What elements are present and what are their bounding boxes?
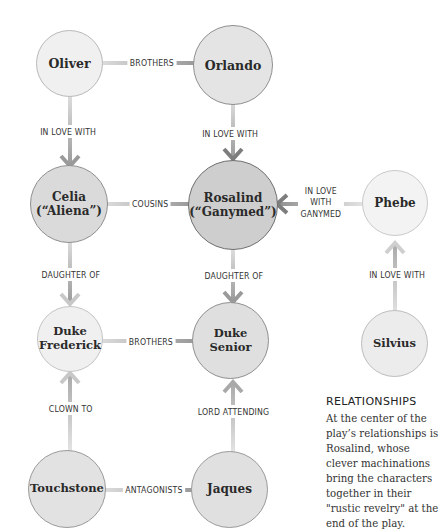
node-label: Duke Senior (193, 327, 268, 355)
rel-silvius-phebe: IN LOVE WITH (368, 268, 427, 281)
rel-jaques-senior: LORD ATTENDING (196, 405, 271, 418)
node-label-line2: Frederick (39, 339, 101, 353)
node-silvius: Silvius (361, 310, 428, 377)
caption-title: RELATIONSHIPS (326, 395, 417, 408)
rel-orlando-rosalind: IN LOVE WITH (201, 127, 260, 140)
node-rosalind: Rosalind(“Ganymed”) (188, 160, 278, 250)
node-duke-frederick: DukeFrederick (37, 306, 103, 372)
node-label-line2: (“Ganymed”) (189, 205, 277, 219)
node-label: Orlando (205, 58, 262, 73)
rel-line: WITH (300, 196, 341, 207)
rel-celia-frederick: DAUGHTER OF (40, 268, 102, 281)
node-orlando: Orlando (193, 25, 273, 105)
rel-phebe-rosalind: IN LOVE WITH GANYMED (298, 185, 344, 219)
node-label-line1: Rosalind (189, 191, 277, 205)
node-jaques: Jaques (191, 451, 268, 528)
node-celia: Celia(“Aliena”) (30, 165, 108, 243)
node-label: Oliver (48, 56, 90, 71)
rel-rosalind-senior: DAUGHTER OF (203, 269, 265, 282)
caption-body: At the center of the play’s relationship… (326, 411, 442, 529)
node-label-line1: Celia (36, 190, 102, 204)
node-label-line2: (“Aliena”) (36, 204, 102, 218)
rel-touchstone-jaques: ANTAGONISTS (123, 484, 185, 495)
rel-oliver-celia: IN LOVE WITH (39, 125, 98, 138)
node-duke-senior: Duke Senior (192, 302, 269, 379)
node-label: Phebe (374, 196, 415, 210)
rel-touchstone-frederick: CLOWN TO (47, 402, 94, 415)
rel-line: IN LOVE (300, 185, 341, 196)
rel-frederick-senior: BROTHERS (126, 336, 175, 347)
rel-oliver-orlando: BROTHERS (127, 57, 176, 68)
node-oliver: Oliver (36, 30, 103, 97)
node-label: Silvius (373, 337, 416, 351)
node-label: Jaques (207, 482, 252, 496)
node-label-line1: Duke (39, 325, 101, 339)
rel-celia-rosalind: COUSINS (130, 198, 171, 209)
node-label: Touchstone (30, 482, 104, 496)
rel-line: GANYMED (300, 208, 341, 219)
node-phebe: Phebe (362, 170, 428, 236)
node-touchstone: Touchstone (28, 450, 106, 528)
